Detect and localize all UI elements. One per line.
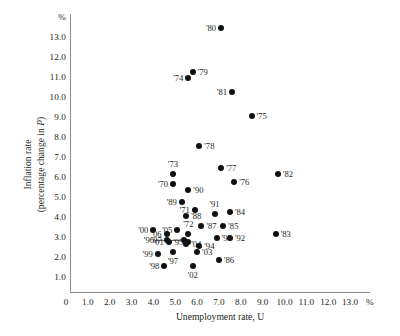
x-axis-title-text: Unemployment rate, U xyxy=(176,311,264,322)
data-point xyxy=(196,243,202,249)
data-point-label: '78 xyxy=(204,142,214,151)
data-point-label: '88 xyxy=(191,212,201,221)
x-axis-line xyxy=(70,292,370,293)
data-point xyxy=(220,223,226,229)
y-axis-title-line1: Inflation rate xyxy=(22,140,33,190)
data-point-label: '77 xyxy=(226,164,236,173)
data-point xyxy=(249,113,255,119)
data-point xyxy=(164,231,170,237)
data-point xyxy=(170,171,176,177)
data-point xyxy=(273,231,279,237)
data-point xyxy=(181,237,187,243)
data-point-label: '81 xyxy=(217,88,227,97)
data-point xyxy=(194,249,200,255)
data-point xyxy=(190,263,196,269)
data-point-label: '79 xyxy=(198,68,208,77)
data-point-label: '02 xyxy=(188,271,198,280)
data-point xyxy=(216,257,222,263)
y-axis-unit-label: % xyxy=(6,13,66,22)
data-point xyxy=(150,227,156,233)
data-point-label: '72 xyxy=(183,220,193,229)
data-point-label: '98 xyxy=(149,262,159,271)
data-point-label: '97 xyxy=(168,257,178,266)
data-point xyxy=(155,251,161,257)
data-point xyxy=(218,165,224,171)
data-point xyxy=(161,263,167,269)
data-point-label: '05 xyxy=(162,226,172,235)
scatter-chart: %1.02.03.04.05.06.07.08.09.010.011.012.0… xyxy=(0,0,400,336)
data-point-label: '00 xyxy=(138,226,148,235)
data-point xyxy=(275,171,281,177)
data-point xyxy=(185,231,191,237)
x-axis-title: Unemployment rate, U xyxy=(70,311,370,322)
data-point-label: '06 xyxy=(151,230,161,239)
data-point-label: '94 xyxy=(204,242,214,251)
data-point xyxy=(231,179,237,185)
data-point xyxy=(185,187,191,193)
data-point-label: '03 xyxy=(202,248,212,257)
data-point xyxy=(183,241,189,247)
data-point-label: '75 xyxy=(257,112,267,121)
data-point xyxy=(227,209,233,215)
data-point xyxy=(192,207,198,213)
data-point-label: '85 xyxy=(228,222,238,231)
data-point-label: '71 xyxy=(180,206,190,215)
data-point xyxy=(229,89,235,95)
data-point-label: '01 xyxy=(154,238,164,247)
data-point-label: '95 xyxy=(173,238,183,247)
x-axis-unit-label: % xyxy=(350,297,390,307)
data-point xyxy=(198,223,204,229)
y-axis-title: Inflation rate (percentage change in P) xyxy=(22,45,47,285)
data-point-label: '07 xyxy=(151,236,161,245)
data-point xyxy=(164,237,170,243)
data-point-label: '84 xyxy=(235,208,245,217)
data-point-label: '76 xyxy=(239,178,249,187)
data-point xyxy=(170,249,176,255)
data-point-label: '93 xyxy=(222,234,232,243)
data-point xyxy=(185,75,191,81)
data-point-label: '90 xyxy=(193,186,203,195)
data-point-label: '74 xyxy=(173,74,183,83)
y-axis-line xyxy=(70,14,71,292)
data-point-label: '70 xyxy=(158,180,168,189)
data-point xyxy=(212,211,218,217)
data-point xyxy=(214,235,220,241)
y-axis-title-line2: (percentage change in P) xyxy=(34,45,47,285)
data-point xyxy=(190,69,196,75)
data-point-label: '82 xyxy=(283,170,293,179)
data-point-label: '92 xyxy=(235,234,245,243)
data-point xyxy=(183,213,189,219)
data-point xyxy=(166,239,172,245)
data-point-label: '89 xyxy=(167,198,177,207)
plot-area: '80'74'79'81'75'78'73'77'82'76'71'70'90'… xyxy=(0,0,400,336)
y-tick-label: 13.0 xyxy=(6,33,66,42)
data-point-label: '86 xyxy=(224,256,234,265)
data-point-label: '87 xyxy=(206,222,216,231)
data-point-label: '96 xyxy=(144,236,154,245)
data-point xyxy=(170,181,176,187)
data-point-label: '99 xyxy=(143,250,153,259)
data-point xyxy=(218,25,224,31)
data-point-label: '04 xyxy=(191,240,201,249)
data-point-label: '91 xyxy=(210,200,220,209)
data-point xyxy=(196,143,202,149)
data-point-label: '80 xyxy=(206,24,216,33)
data-point xyxy=(179,199,185,205)
label-leader-line xyxy=(155,240,181,241)
data-point xyxy=(174,227,180,233)
data-point-label: '73 xyxy=(168,160,178,169)
data-point xyxy=(185,239,191,245)
data-point-label: '83 xyxy=(281,230,291,239)
data-point xyxy=(227,235,233,241)
